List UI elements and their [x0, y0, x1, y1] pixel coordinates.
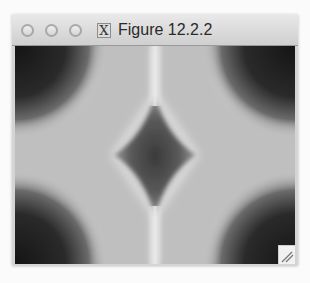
resize-grip-icon	[279, 246, 295, 264]
resize-grip[interactable]	[278, 245, 295, 264]
figure-window: X Figure 12.2.2	[12, 14, 298, 265]
title-bar[interactable]: X Figure 12.2.2	[12, 14, 298, 46]
close-button[interactable]	[21, 24, 34, 37]
window-title: Figure 12.2.2	[118, 21, 212, 39]
minimize-button[interactable]	[45, 24, 58, 37]
zoom-button[interactable]	[69, 24, 82, 37]
x11-icon: X	[97, 23, 111, 38]
figure-canvas	[15, 46, 295, 264]
density-plot	[15, 46, 295, 264]
